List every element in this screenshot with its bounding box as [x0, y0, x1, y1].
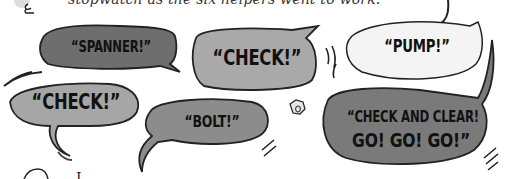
character-icon: [24, 152, 72, 179]
bottom-text: I ...: [76, 170, 99, 179]
bubble-bolt: [139, 99, 276, 172]
bubble-check-and-clear-line1: “CHECK AND CLEAR!: [347, 108, 467, 126]
bubble-pump-text: “PUMP!”: [374, 36, 460, 56]
stopwatch-icon: [14, 0, 34, 13]
bubble-check-top-text: “CHECK!”: [211, 46, 303, 70]
bubble-bolt-text: “BOLT!”: [171, 112, 252, 131]
bubble-check-left-text: “CHECK!”: [28, 90, 125, 114]
illustration: stopwatch as the six helpers went to wor…: [0, 0, 505, 179]
hex-nut-icon: [290, 100, 305, 114]
bubble-check-and-clear-line2: GO! GO! GO!”: [352, 128, 466, 152]
bubble-spanner-text: “SPANNER!”: [65, 38, 157, 56]
